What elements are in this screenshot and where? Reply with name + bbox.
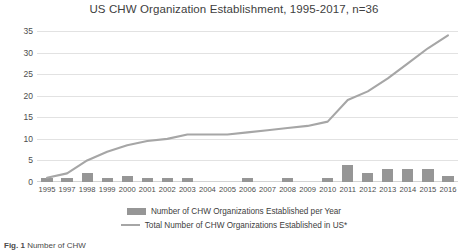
x-axis-tick-label: 2002 bbox=[157, 184, 177, 195]
legend-label-bars: Number of CHW Organizations Established … bbox=[151, 207, 341, 216]
y-axis-tick-label: 15 bbox=[0, 113, 33, 122]
bar-swatch-icon bbox=[127, 208, 146, 215]
chart-legend: Number of CHW Organizations Established … bbox=[0, 204, 468, 232]
figure-caption-prefix: Fig. 1 bbox=[4, 241, 25, 250]
y-axis-tick-label: 35 bbox=[0, 27, 33, 36]
x-axis-tick-label: 2008 bbox=[278, 184, 298, 195]
x-axis-tick-label: 2015 bbox=[418, 184, 438, 195]
x-axis-tick-label: 2012 bbox=[358, 184, 378, 195]
x-axis: 1995199719981999200020012002200320042005… bbox=[37, 184, 458, 197]
y-axis-tick-label: 0 bbox=[0, 178, 33, 187]
chart-title: US CHW Organization Establishment, 1995-… bbox=[0, 3, 468, 15]
x-axis-tick-label: 2003 bbox=[177, 184, 197, 195]
x-axis-tick-label: 1998 bbox=[77, 184, 97, 195]
legend-item-bars: Number of CHW Organizations Established … bbox=[0, 204, 468, 218]
x-axis-tick-label: 2016 bbox=[438, 184, 458, 195]
legend-label-line: Total Number of CHW Organizations Establ… bbox=[145, 221, 348, 230]
figure-caption-text: Number of CHW bbox=[27, 241, 86, 250]
x-axis-tick-label: 2007 bbox=[258, 184, 278, 195]
line-swatch-icon bbox=[121, 224, 140, 226]
y-axis-tick-label: 25 bbox=[0, 70, 33, 79]
y-axis-tick-label: 10 bbox=[0, 134, 33, 143]
x-axis-tick-label: 2001 bbox=[137, 184, 157, 195]
y-axis-tick-label: 20 bbox=[0, 91, 33, 100]
x-axis-tick-label: 1999 bbox=[97, 184, 117, 195]
legend-item-line: Total Number of CHW Organizations Establ… bbox=[0, 218, 468, 232]
y-axis: 05101520253035 bbox=[0, 31, 33, 182]
x-axis-tick-label: 1997 bbox=[57, 184, 77, 195]
x-axis-tick-label: 1995 bbox=[37, 184, 57, 195]
x-axis-tick-label: 2004 bbox=[197, 184, 217, 195]
y-axis-tick-label: 5 bbox=[0, 156, 33, 165]
x-axis-tick-label: 2000 bbox=[117, 184, 137, 195]
x-axis-tick-label: 2013 bbox=[378, 184, 398, 195]
figure-caption: Fig. 1 Number of CHW bbox=[4, 241, 86, 250]
x-axis-tick-label: 2014 bbox=[398, 184, 418, 195]
line-series bbox=[37, 31, 458, 182]
x-axis-tick-label: 2009 bbox=[298, 184, 318, 195]
x-axis-tick-label: 2010 bbox=[318, 184, 338, 195]
x-axis-tick-label: 2005 bbox=[217, 184, 237, 195]
plot-area bbox=[37, 31, 458, 182]
x-axis-tick-label: 2006 bbox=[237, 184, 257, 195]
y-axis-tick-label: 30 bbox=[0, 48, 33, 57]
x-axis-tick-label: 2011 bbox=[338, 184, 358, 195]
chart-figure: US CHW Organization Establishment, 1995-… bbox=[0, 0, 468, 252]
